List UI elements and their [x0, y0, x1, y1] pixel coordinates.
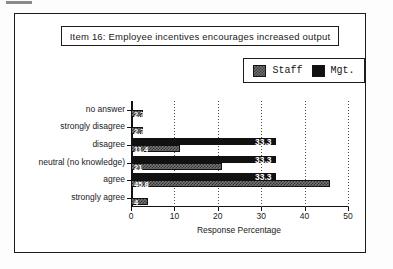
- bar-value-label: 33.3: [255, 139, 272, 146]
- category-label: strongly disagree: [60, 122, 125, 131]
- bar-value-label: 4: [134, 199, 138, 206]
- plot-area: no answer2.7strongly disagree2.7disagree…: [131, 101, 348, 207]
- bar-row: strongly agree4: [131, 189, 348, 207]
- bar-mgt[interactable]: 33.3: [131, 138, 276, 145]
- legend-swatch-mgt-icon: [312, 65, 325, 77]
- gridline: [348, 101, 349, 207]
- x-tick-label: 30: [256, 211, 265, 221]
- legend-swatch-staff-icon: [253, 65, 266, 77]
- x-tick-label: 50: [343, 211, 352, 221]
- bar-row: no answer2.7: [131, 101, 348, 119]
- bar-value-label: 11.4: [134, 146, 148, 153]
- bar-staff[interactable]: 2.7: [131, 127, 143, 134]
- chart-canvas: Item 16: Employee incentives encourages …: [0, 0, 393, 269]
- bar-staff[interactable]: 21: [131, 163, 222, 170]
- bar-staff[interactable]: 11.4: [131, 145, 180, 152]
- bar-staff[interactable]: 4: [131, 198, 148, 205]
- bar-row: strongly disagree2.7: [131, 119, 348, 137]
- bar-staff[interactable]: 45.8: [131, 180, 330, 187]
- legend-entry-mgt: Mgt.: [312, 65, 355, 77]
- x-tick-label: 40: [300, 211, 309, 221]
- bar-row: neutral (no knowledge)33.321: [131, 154, 348, 172]
- legend-label-mgt: Mgt.: [331, 65, 355, 76]
- legend-entry-staff: Staff: [253, 65, 302, 77]
- chart-title-box: Item 16: Employee incentives encourages …: [61, 26, 339, 46]
- category-label: no answer: [86, 105, 125, 114]
- bar-staff[interactable]: 2.7: [131, 110, 143, 117]
- scan-artifact: [6, 1, 32, 4]
- bar-value-label: 45.8: [134, 181, 149, 188]
- x-tick-label: 10: [170, 211, 179, 221]
- legend-label-staff: Staff: [272, 65, 302, 76]
- bar-mgt[interactable]: 33.3: [131, 173, 276, 180]
- category-label: strongly agree: [71, 193, 125, 202]
- x-tick-label: 20: [213, 211, 222, 221]
- bar-value-label: 33.3: [255, 157, 272, 164]
- category-label: neutral (no knowledge): [39, 158, 125, 167]
- bar-value-label: 2.7: [134, 128, 144, 135]
- chart-legend: Staff Mgt.: [243, 58, 365, 83]
- category-label: agree: [103, 175, 125, 184]
- bar-row: agree33.345.8: [131, 172, 348, 190]
- bar-row: disagree33.311.4: [131, 136, 348, 154]
- x-axis-title: Response Percentage: [197, 225, 281, 235]
- chart-title: Item 16: Employee incentives encourages …: [70, 31, 330, 42]
- bar-value-label: 2.7: [134, 111, 144, 118]
- bar-mgt[interactable]: 33.3: [131, 156, 276, 163]
- bar-value-label: 21: [134, 164, 142, 171]
- category-label: disagree: [92, 140, 125, 149]
- x-tick-label: 0: [129, 211, 134, 221]
